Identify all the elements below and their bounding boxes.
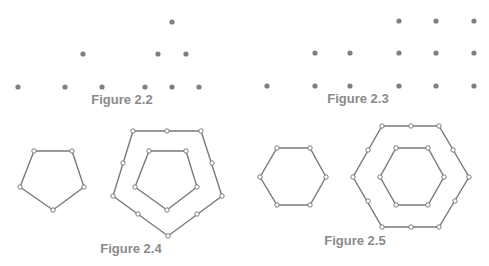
vertex-dot <box>308 203 312 207</box>
figurate-numbers-diagram <box>0 0 489 266</box>
dot <box>169 19 174 24</box>
vertex-dot <box>426 146 430 150</box>
vertex-dot <box>184 149 188 153</box>
dot <box>312 83 317 88</box>
dot <box>433 50 438 55</box>
vertex-dot <box>82 185 86 189</box>
vertex-dot <box>437 225 441 229</box>
dot <box>169 84 174 89</box>
inner-pentagon <box>135 151 197 210</box>
vertex-dot <box>32 149 36 153</box>
vertex-dot <box>220 194 224 198</box>
dot <box>433 83 438 88</box>
vertex-dot <box>18 185 22 189</box>
dot <box>155 51 160 56</box>
dot <box>471 18 476 23</box>
dot <box>312 50 317 55</box>
vertex-dot <box>426 203 430 207</box>
vertex-dot <box>308 146 312 150</box>
vertex-dot <box>199 129 203 133</box>
vertex-dot <box>136 212 140 216</box>
vertex-dot <box>165 129 169 133</box>
dot <box>80 51 85 56</box>
vertex-dot <box>70 149 74 153</box>
vertex-dot <box>442 175 446 179</box>
vertex-dot <box>366 148 370 152</box>
vertex-dot <box>131 129 135 133</box>
vertex-dot <box>378 175 382 179</box>
vertex-dot <box>437 124 441 128</box>
vertex-dot <box>210 161 214 165</box>
vertex-dot <box>380 124 384 128</box>
figure-2-5-hexagons <box>258 124 471 229</box>
vertex-dot <box>111 194 115 198</box>
figure-2-2-dots <box>15 19 201 89</box>
dot <box>396 50 401 55</box>
dot <box>264 83 269 88</box>
dot <box>433 18 438 23</box>
dot <box>196 84 201 89</box>
inner-hexagon <box>380 148 444 205</box>
outer-hexagon <box>353 126 469 227</box>
dot <box>347 83 352 88</box>
dot <box>183 51 188 56</box>
vertex-dot <box>195 212 199 216</box>
figure-2-4-pentagons <box>18 129 224 238</box>
small-hexagon <box>260 148 326 205</box>
vertex-dot <box>453 199 457 203</box>
vertex-dot <box>451 148 455 152</box>
small-pentagon <box>20 151 84 210</box>
vertex-dot <box>409 225 413 229</box>
outer-pentagon <box>113 131 222 236</box>
vertex-dot <box>380 225 384 229</box>
dot <box>347 50 352 55</box>
vertex-dot <box>165 208 169 212</box>
dot <box>471 50 476 55</box>
dot <box>62 84 67 89</box>
vertex-dot <box>275 203 279 207</box>
figure-2-2-caption: Figure 2.2 <box>91 93 152 107</box>
vertex-dot <box>166 234 170 238</box>
vertex-dot <box>275 146 279 150</box>
vertex-dot <box>351 175 355 179</box>
vertex-dot <box>195 185 199 189</box>
dot <box>15 84 20 89</box>
vertex-dot <box>121 161 125 165</box>
vertex-dot <box>467 175 471 179</box>
vertex-dot <box>147 149 151 153</box>
vertex-dot <box>133 185 137 189</box>
dot <box>396 83 401 88</box>
dot <box>471 83 476 88</box>
figure-2-4-caption: Figure 2.4 <box>100 242 161 256</box>
vertex-dot <box>324 175 328 179</box>
figure-2-3-dots <box>264 18 476 88</box>
vertex-dot <box>394 203 398 207</box>
vertex-dot <box>258 175 262 179</box>
figure-2-3-caption: Figure 2.3 <box>327 92 388 106</box>
dot <box>396 18 401 23</box>
dot <box>99 84 104 89</box>
vertex-dot <box>394 146 398 150</box>
vertex-dot <box>409 124 413 128</box>
vertex-dot <box>366 199 370 203</box>
vertex-dot <box>51 208 55 212</box>
figure-2-5-caption: Figure 2.5 <box>324 234 385 248</box>
dot <box>142 84 147 89</box>
